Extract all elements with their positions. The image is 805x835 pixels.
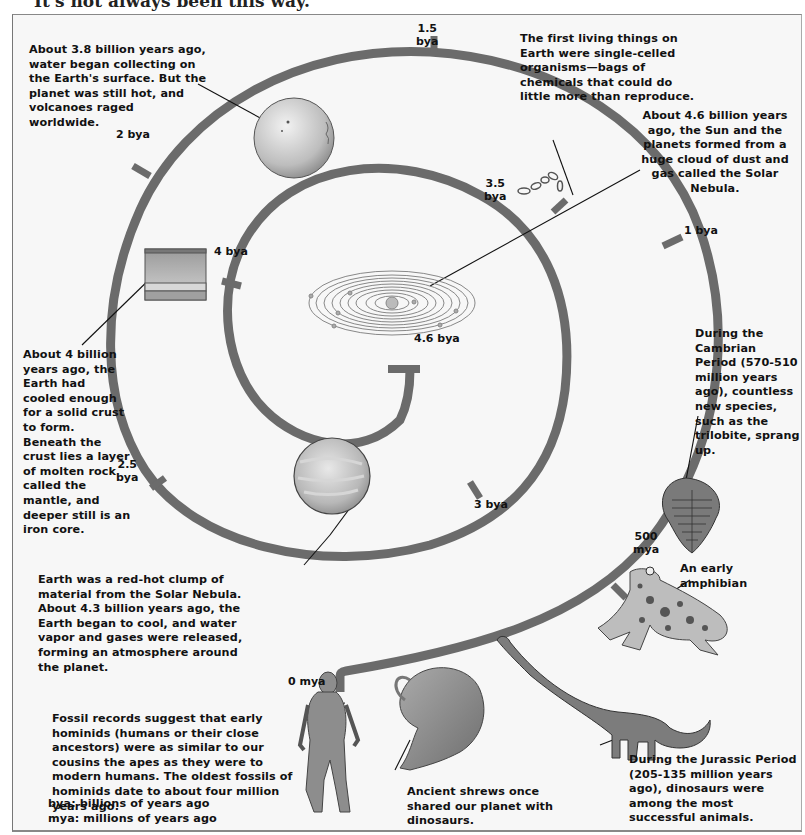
shrew [396,668,484,770]
trilobite [662,478,719,553]
tick-label-1-5-bya: 1.5 bya [416,22,438,48]
tick-label-500-mya: 500 mya [633,530,659,556]
tick-label-4-6-bya: 4.6 bya [414,332,460,345]
tick-label-1-5-value: 1.5 [416,22,438,35]
legend-bya: bya: billions of years ago [48,797,288,812]
tick-label-4-bya: 4 bya [214,245,248,258]
single-cell-organisms [518,171,563,194]
red-hot-earth [294,438,370,514]
crust-cross-section [145,249,206,300]
tick-label-1-bya: 1 bya [684,224,718,237]
caption-jurassic: During the Jurassic Period (205-135 mill… [629,753,799,826]
early-earth-globe [254,98,334,178]
caption-first-life: The first living things on Earth were si… [520,32,700,105]
tick-label-500-value: 500 [633,530,659,543]
tick-label-3-5-unit: bya [484,190,506,203]
tick-label-3-5-value: 3.5 [484,177,506,190]
legend-mya: mya: millions of years ago [48,812,288,827]
caption-red-hot-earth: Earth was a red-hot clump of material fr… [38,573,252,675]
caption-shrews: Ancient shrews once shared our planet wi… [407,785,557,829]
tick-label-500-unit: mya [633,543,659,556]
caption-solar-nebula: About 4.6 billion years ago, the Sun and… [632,109,798,197]
solar-nebula [309,271,475,335]
caption-crust: About 4 billion years ago, the Earth had… [23,348,131,538]
tick-label-3-bya: 3 bya [474,498,508,511]
caption-amphibian: An early amphibian [680,562,804,591]
tick-label-3-5-bya: 3.5 bya [484,177,506,203]
legend: bya: billions of years ago mya: millions… [48,797,288,826]
tick-label-0-mya: 0 mya [288,675,326,688]
caption-water: About 3.8 billion years ago, water began… [29,43,207,131]
caption-cambrian: During the Cambrian Period (570-510 mill… [695,327,801,458]
dinosaur [497,636,710,760]
tick-label-1-5-unit: bya [416,35,438,48]
